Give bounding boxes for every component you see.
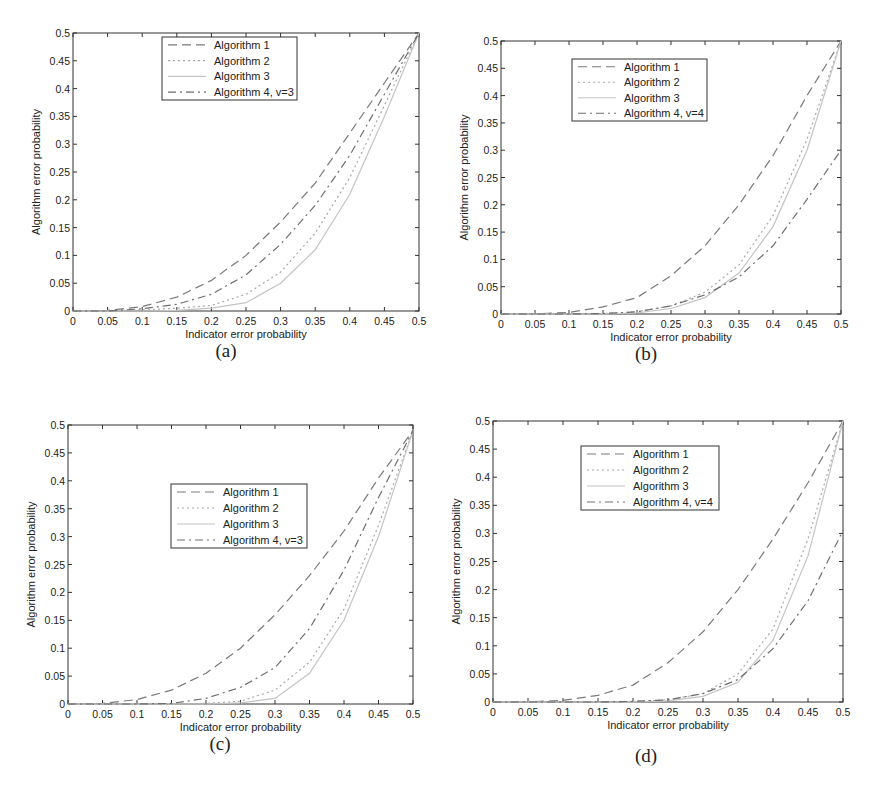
subfigure-label-a: (a): [196, 340, 256, 362]
y-tick-label: 0.1: [55, 249, 70, 261]
y-axis-label: Algorithm error probability: [30, 109, 42, 235]
y-tick-label: 0.4: [483, 90, 498, 102]
x-tick-label: 0.3: [273, 315, 288, 327]
y-tick-label: 0.3: [50, 531, 65, 543]
x-axis-label: Indicator error probability: [610, 331, 732, 343]
y-tick-label: 0.35: [470, 499, 491, 511]
legend: Algorithm 1Algorithm 2Algorithm 3Algorit…: [581, 446, 719, 510]
x-tick-label: 0.45: [798, 706, 819, 718]
y-tick-label: 0.4: [475, 471, 490, 483]
y-axis-label: Algorithm error probability: [450, 498, 462, 624]
x-tick-label: 0.4: [766, 318, 781, 330]
y-tick-label: 0.25: [470, 556, 491, 568]
x-tick-label: 0.4: [342, 315, 357, 327]
x-tick-label: 0.3: [698, 318, 713, 330]
y-tick-label: 0.2: [475, 584, 490, 596]
chart-panel-b: 00.050.10.150.20.250.30.350.40.450.500.0…: [440, 0, 881, 400]
x-tick-label: 0.05: [525, 318, 546, 330]
x-tick-label: 0.15: [161, 708, 182, 720]
x-tick-label: 0.45: [368, 708, 389, 720]
plot-area: [68, 425, 413, 704]
legend: Algorithm 1Algorithm 2Algorithm 3Algorit…: [162, 37, 297, 100]
x-tick-label: 0.15: [588, 706, 609, 718]
x-tick-label: 0.1: [556, 706, 571, 718]
y-tick-label: 0.15: [50, 222, 71, 234]
x-tick-label: 0.45: [374, 315, 395, 327]
y-tick-label: 0.3: [475, 527, 490, 539]
x-tick-label: 0.5: [406, 708, 421, 720]
y-tick-label: 0.05: [50, 277, 71, 289]
y-tick-label: 0.5: [475, 415, 490, 427]
y-axis-label: Algorithm error probability: [25, 501, 37, 627]
x-tick-label: 0.25: [230, 708, 251, 720]
legend-entry: Algorithm 3: [633, 480, 689, 492]
x-tick-label: 0.25: [236, 315, 257, 327]
y-tick-label: 0: [64, 305, 70, 317]
x-tick-label: 0.35: [305, 315, 326, 327]
y-tick-label: 0.1: [50, 642, 65, 654]
legend-entry: Algorithm 4, v=3: [223, 534, 303, 546]
chart-panel-a: 00.050.10.150.20.250.30.350.40.450.500.0…: [0, 0, 440, 400]
subfigure-label-c: (c): [190, 733, 250, 755]
x-tick-label: 0.5: [834, 318, 849, 330]
y-tick-label: 0.25: [50, 166, 71, 178]
y-tick-label: 0.5: [483, 35, 498, 47]
x-tick-label: 0.35: [729, 318, 750, 330]
legend-entry: Algorithm 4, v=4: [624, 107, 704, 119]
y-tick-label: 0.15: [470, 612, 491, 624]
y-tick-label: 0.05: [478, 281, 499, 293]
x-tick-label: 0.5: [836, 706, 851, 718]
x-tick-label: 0.2: [199, 708, 214, 720]
x-tick-label: 0: [70, 315, 76, 327]
y-tick-label: 0.5: [55, 27, 70, 39]
y-tick-label: 0.1: [483, 253, 498, 265]
x-tick-label: 0.35: [299, 708, 320, 720]
y-tick-label: 0.25: [478, 172, 499, 184]
y-tick-label: 0.15: [45, 614, 66, 626]
legend: Algorithm 1Algorithm 2Algorithm 3Algorit…: [572, 59, 707, 121]
y-tick-label: 0.25: [45, 559, 66, 571]
y-tick-label: 0.15: [478, 226, 499, 238]
x-tick-label: 0.3: [268, 708, 283, 720]
chart-panel-c: 00.050.10.150.20.250.30.350.40.450.500.0…: [0, 410, 440, 810]
chart-b-svg: 00.050.10.150.20.250.30.350.40.450.500.0…: [440, 0, 881, 400]
legend-entry: Algorithm 3: [214, 70, 270, 82]
x-tick-label: 0.2: [630, 318, 645, 330]
y-tick-label: 0: [59, 698, 65, 710]
legend: Algorithm 1Algorithm 2Algorithm 3Algorit…: [171, 484, 307, 548]
x-tick-label: 0.05: [518, 706, 539, 718]
y-tick-label: 0.2: [55, 194, 70, 206]
y-tick-label: 0: [484, 696, 490, 708]
y-tick-label: 0.45: [478, 62, 499, 74]
y-tick-label: 0.2: [483, 199, 498, 211]
x-tick-label: 0: [65, 708, 71, 720]
legend-entry: Algorithm 2: [633, 464, 689, 476]
x-tick-label: 0.2: [626, 706, 641, 718]
legend-entry: Algorithm 2: [223, 502, 279, 514]
y-tick-label: 0.45: [50, 55, 71, 67]
x-tick-label: 0.05: [92, 708, 113, 720]
x-tick-label: 0.5: [412, 315, 427, 327]
x-tick-label: 0.1: [130, 708, 145, 720]
y-tick-label: 0.1: [475, 640, 490, 652]
x-tick-label: 0.35: [728, 706, 749, 718]
y-tick-label: 0.3: [483, 144, 498, 156]
y-tick-label: 0.2: [50, 586, 65, 598]
y-tick-label: 0.05: [45, 670, 66, 682]
x-tick-label: 0: [490, 706, 496, 718]
legend-entry: Algorithm 3: [223, 518, 279, 530]
y-tick-label: 0.3: [55, 138, 70, 150]
legend-entry: Algorithm 2: [624, 76, 680, 88]
y-tick-label: 0.4: [50, 475, 65, 487]
x-tick-label: 0.1: [135, 315, 150, 327]
x-tick-label: 0.2: [204, 315, 219, 327]
y-tick-label: 0.45: [470, 443, 491, 455]
x-axis-label: Indicator error probability: [607, 719, 729, 731]
y-axis-label: Algorithm error probability: [458, 114, 470, 240]
y-tick-label: 0.4: [55, 83, 70, 95]
x-axis-label: Indicator error probability: [180, 721, 302, 733]
y-tick-label: 0: [492, 308, 498, 320]
x-tick-label: 0.25: [658, 706, 679, 718]
x-tick-label: 0.4: [766, 706, 781, 718]
x-tick-label: 0.15: [167, 315, 188, 327]
